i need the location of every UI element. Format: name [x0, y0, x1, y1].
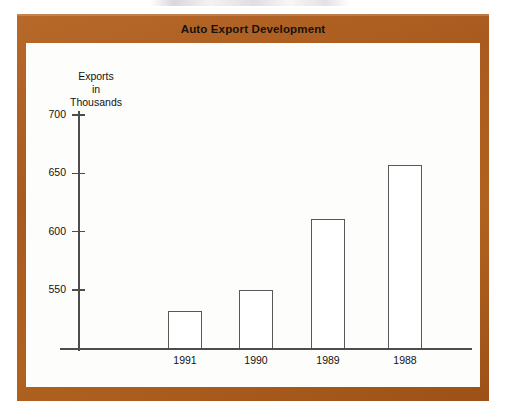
bar-1990 — [239, 290, 273, 348]
figure-frame: Auto Export Development Exports in Thous… — [17, 14, 489, 401]
y-axis-title: Exports in Thousands — [53, 70, 139, 109]
x-tick-label-1991: 1991 — [155, 354, 215, 366]
y-tick-label-600: 600 — [26, 225, 66, 237]
x-tick-label-1989: 1989 — [298, 354, 358, 366]
scan-artifact — [150, 0, 350, 6]
plot-panel: Exports in Thousands 700 650 600 550 199… — [26, 43, 480, 387]
y-tick-650 — [72, 173, 85, 175]
bar-1991 — [168, 311, 202, 348]
y-axis-title-line-1: Exports — [53, 70, 139, 83]
x-axis-line — [60, 348, 472, 350]
x-tick-label-1990: 1990 — [226, 354, 286, 366]
y-axis-title-line-2: in — [53, 83, 139, 96]
y-tick-label-650: 650 — [26, 166, 66, 178]
y-tick-label-550: 550 — [26, 283, 66, 295]
y-tick-label-700: 700 — [26, 108, 66, 120]
chart-title: Auto Export Development — [181, 23, 326, 35]
y-tick-600 — [72, 231, 85, 233]
bar-1988 — [388, 165, 422, 348]
y-tick-550 — [72, 289, 85, 291]
x-tick-label-1988: 1988 — [375, 354, 435, 366]
y-tick-700 — [72, 114, 85, 116]
title-banner: Auto Export Development — [17, 14, 489, 43]
bar-1989 — [311, 219, 345, 348]
